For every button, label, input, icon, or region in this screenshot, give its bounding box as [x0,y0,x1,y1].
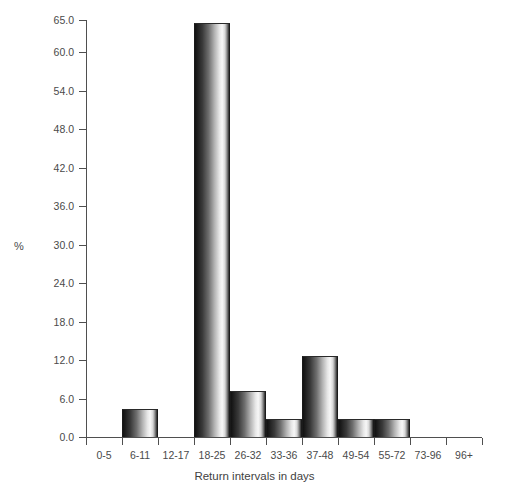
bar [122,409,158,437]
x-tick-label: 96+ [446,449,482,461]
y-tick-label-wrap: 65.0 [29,14,74,26]
bar [230,391,266,437]
y-tick-mark [79,168,86,169]
y-tick-mark [79,206,86,207]
y-tick-mark [79,52,86,53]
bar [374,419,410,437]
y-tick-label: 42.0 [34,162,74,174]
x-tick-mark [230,438,231,445]
bar [266,419,302,437]
y-axis-title: % [14,240,24,252]
bar [338,419,374,437]
bar [302,356,338,437]
y-tick-mark [79,20,86,21]
y-tick-mark [79,322,86,323]
y-tick-label-wrap: 54.0 [29,85,74,97]
x-tick-mark [86,438,87,445]
x-tick-mark [302,438,303,445]
y-tick-label: 0.0 [34,431,74,443]
x-tick-label: 33-36 [266,449,302,461]
y-tick-mark [79,437,86,438]
x-tick-label: 0-5 [86,449,122,461]
y-axis-line [86,20,87,438]
y-tick-label-wrap: 18.0 [29,316,74,328]
y-tick-label-wrap: 30.0 [29,239,74,251]
x-tick-label: 18-25 [194,449,230,461]
y-tick-label-wrap: 6.0 [29,393,74,405]
y-tick-label: 65.0 [34,14,74,26]
y-tick-label-wrap: 0.0 [29,431,74,443]
y-tick-label: 24.0 [34,277,74,289]
x-axis-title: Return intervals in days [0,470,509,482]
y-tick-label-wrap: 12.0 [29,354,74,366]
y-tick-label-wrap: 36.0 [29,200,74,212]
x-tick-label: 55-72 [374,449,410,461]
x-tick-label: 73-96 [410,449,446,461]
y-tick-label: 12.0 [34,354,74,366]
x-tick-label: 6-11 [122,449,158,461]
x-tick-mark [482,438,483,445]
y-tick-label-wrap: 42.0 [29,162,74,174]
x-tick-mark [374,438,375,445]
y-tick-mark [79,91,86,92]
y-tick-label: 6.0 [34,393,74,405]
y-tick-label: 36.0 [34,200,74,212]
y-tick-label: 60.0 [34,46,74,58]
x-tick-mark [446,438,447,445]
x-tick-mark [338,438,339,445]
y-tick-mark [79,360,86,361]
y-tick-label: 18.0 [34,316,74,328]
y-tick-mark [79,399,86,400]
x-tick-mark [410,438,411,445]
x-tick-mark [158,438,159,445]
y-tick-mark [79,245,86,246]
x-tick-mark [122,438,123,445]
bar-chart: % 0.06.012.018.024.030.036.042.048.054.0… [0,0,509,498]
x-tick-mark [266,438,267,445]
y-tick-label: 30.0 [34,239,74,251]
x-tick-mark [194,438,195,445]
x-tick-label: 26-32 [230,449,266,461]
y-tick-label: 48.0 [34,123,74,135]
x-tick-label: 37-48 [302,449,338,461]
y-tick-label-wrap: 48.0 [29,123,74,135]
bar [194,23,230,437]
y-tick-label-wrap: 60.0 [29,46,74,58]
y-tick-mark [79,129,86,130]
y-tick-mark [79,283,86,284]
x-tick-label: 12-17 [158,449,194,461]
y-tick-label: 54.0 [34,85,74,97]
x-axis-line [86,437,482,438]
x-tick-label: 49-54 [338,449,374,461]
y-tick-label-wrap: 24.0 [29,277,74,289]
